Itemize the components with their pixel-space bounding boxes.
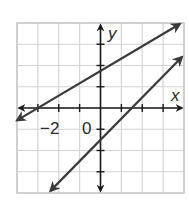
origin-label: 0 bbox=[82, 119, 91, 138]
tick-label-neg2: −2 bbox=[40, 119, 59, 138]
x-axis-label: x bbox=[170, 86, 180, 105]
axes bbox=[19, 25, 182, 191]
coordinate-plane: y x −2 0 bbox=[0, 0, 189, 208]
y-axis-label: y bbox=[107, 24, 118, 43]
series-line-2 bbox=[50, 57, 182, 191]
series-line-1 bbox=[17, 24, 180, 120]
